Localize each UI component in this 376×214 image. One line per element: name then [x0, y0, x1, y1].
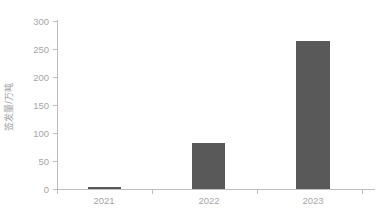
x-axis-tick	[257, 190, 258, 194]
bar-chart: 签发量/万吨 0 50 100 150 200 250 300 2021 202…	[0, 0, 376, 214]
bar-2021	[88, 187, 121, 189]
bar-2022	[192, 143, 225, 189]
x-axis-line	[57, 189, 375, 190]
x-axis-tick	[57, 190, 58, 194]
x-axis-tick-label: 2022	[179, 196, 239, 206]
x-axis-tick-label: 2021	[74, 196, 134, 206]
x-axis-tick	[152, 190, 153, 194]
bars-layer	[0, 0, 376, 189]
x-axis-tick-label: 2023	[283, 196, 343, 206]
x-axis-tick	[362, 190, 363, 194]
bar-2023	[296, 41, 330, 189]
